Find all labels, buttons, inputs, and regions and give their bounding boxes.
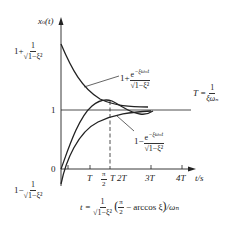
peak-time-formula: t = 1√1−ξ² (π2 − arccos ξ)/ωₙ <box>80 198 179 217</box>
x-tick-pi-half: π2 <box>101 171 107 188</box>
x-axis-arrow-icon <box>188 167 196 172</box>
diagram-canvas: xo(t) 1+1√1−ξ² 1 0 1−1√1−ξ² T π2 T 2T 3T… <box>0 0 239 229</box>
x-tick-T: T <box>87 174 92 183</box>
x-tick-3T: 3T <box>145 174 155 183</box>
lower-envelope-label: 1−e−ξωₙt√1−ξ² <box>134 131 164 153</box>
y-tick-one: 1 <box>51 106 56 115</box>
x-tick-pi-half-T: T <box>110 174 115 183</box>
x-tick-4T: 4T <box>176 174 186 183</box>
y-tick-upper-bound: 1+1√1−ξ² <box>14 42 42 61</box>
upper-envelope-leader <box>84 76 119 87</box>
y-axis-label: xo(t) <box>38 17 54 26</box>
time-constant-formula: T =1ξωₙ <box>193 84 219 103</box>
upper-envelope-label: 1+e−ξωₙt√1−ξ² <box>120 68 150 90</box>
y-axis-arrow-icon <box>59 17 64 25</box>
y-tick-zero: 0 <box>51 165 56 174</box>
lower-envelope-leader <box>117 116 134 131</box>
x-ticks <box>68 165 182 169</box>
x-axis-label: t/s <box>195 174 204 183</box>
y-tick-lower-bound: 1−1√1−ξ² <box>14 181 42 200</box>
x-tick-2T: 2T <box>117 174 127 183</box>
